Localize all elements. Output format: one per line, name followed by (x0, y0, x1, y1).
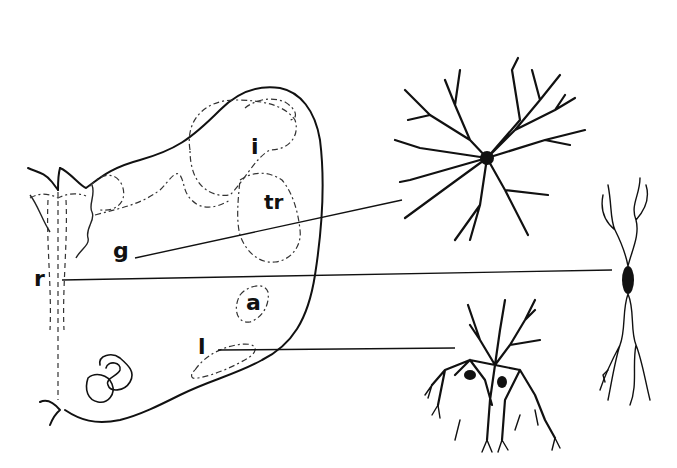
brain-section-outline (28, 87, 322, 425)
bipolar-neuron-right (600, 178, 650, 405)
label-a: a (246, 292, 261, 314)
figure-canvas: i tr g r a l (0, 0, 677, 468)
leader-line-l (218, 348, 455, 350)
label-g: g (113, 240, 129, 262)
leader-line-r (62, 270, 612, 280)
label-r: r (34, 268, 45, 290)
diagram-svg (0, 0, 677, 468)
label-tr: tr (264, 192, 283, 212)
label-i: i (251, 136, 259, 158)
neuron-bottom (425, 300, 560, 452)
multipolar-neuron-top (395, 58, 585, 240)
label-l: l (198, 336, 206, 358)
